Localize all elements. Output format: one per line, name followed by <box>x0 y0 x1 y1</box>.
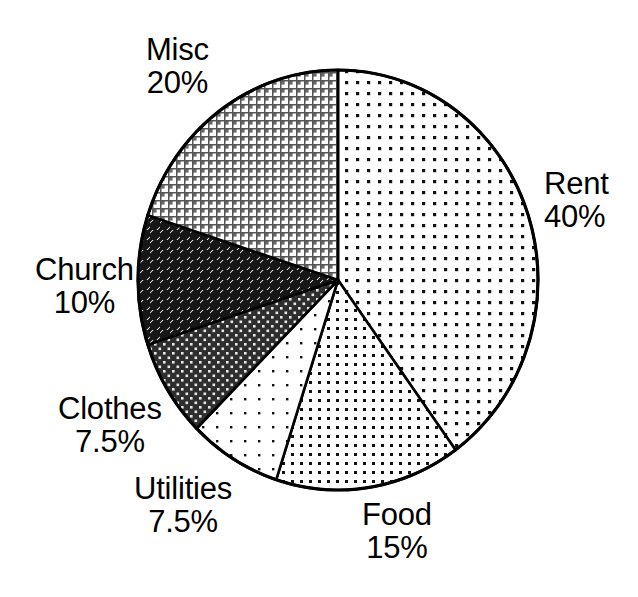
pie-label-food-value: 15% <box>362 531 432 564</box>
pie-label-clothes-name: Clothes <box>58 392 162 425</box>
pie-label-misc-name: Misc <box>146 33 209 66</box>
pie-label-clothes-value: 7.5% <box>58 425 162 458</box>
pie-label-misc-value: 20% <box>146 66 209 99</box>
pie-label-utilities: Utilities 7.5% <box>134 472 232 539</box>
pie-label-utilities-name: Utilities <box>134 472 232 505</box>
pie-label-church: Church 10% <box>35 253 134 320</box>
pie-label-church-value: 10% <box>35 286 134 319</box>
pie-label-rent-name: Rent <box>544 167 609 200</box>
pie-label-food-name: Food <box>362 498 432 531</box>
pie-label-rent: Rent 40% <box>544 167 609 234</box>
pie-label-church-name: Church <box>35 253 134 286</box>
pie-label-rent-value: 40% <box>544 200 609 233</box>
pie-slice-group <box>138 70 538 490</box>
pie-label-clothes: Clothes 7.5% <box>58 392 162 459</box>
pie-chart: Misc 20% Rent 40% Church 10% Clothes 7.5… <box>0 0 638 597</box>
pie-label-utilities-value: 7.5% <box>134 505 232 538</box>
pie-label-food: Food 15% <box>362 498 432 565</box>
pie-label-misc: Misc 20% <box>146 33 209 100</box>
